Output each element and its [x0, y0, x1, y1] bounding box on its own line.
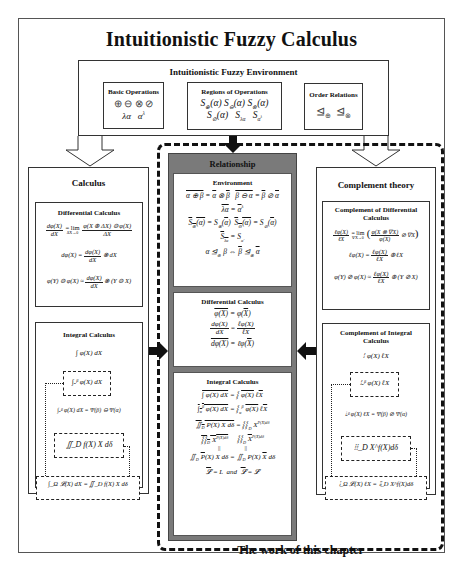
arrow-to-calculus-icon: [60, 136, 120, 168]
relationship-differential-title: Differential Calculus: [174, 298, 291, 306]
relationship-integral-title: Integral Calculus: [174, 378, 291, 386]
complement-theory-title: Complement theory: [317, 180, 435, 190]
complement-dotted-connector-left: [331, 384, 350, 476]
order-relations-title: Order Relations: [305, 91, 362, 99]
rel-int-eq-1: ∫ φ(X) dX = ⸾ φ(X) ℓX: [174, 390, 291, 399]
rel-diff-eq-2: dφ(X)dX = ℓφ(X)ℓX: [174, 321, 291, 336]
basic-operations-box: Basic Operations ⊕ ⊖ ⊗ ⊘ λα αλ: [103, 82, 164, 129]
env-eq-1: α ⊕ β = α ⊗ β β ⊖ α = β ⊘ α: [174, 191, 291, 200]
connector-left: [78, 135, 79, 136]
regions-row-2: S⊘(α) Sλα Sαλ: [188, 110, 281, 122]
arrow-from-complement-icon: [297, 342, 317, 360]
env-eq-5: α ⊴⊕ β ⇔ β ⊴⊗ α: [174, 247, 291, 258]
complement-double-integral: ⦙⦙_D X^f(X)dδ: [341, 443, 411, 453]
complement-differential-box: Complement of Differential Calculus ℓφ(X…: [322, 201, 430, 310]
environment-title: Intuitionistic Fuzzy Environment: [79, 67, 388, 77]
rel-int-eq-4-mid: || ||: [174, 445, 291, 451]
main-title: Intuitionistic Fuzzy Calculus: [0, 28, 463, 51]
order-relations-symbols: ⊴⊕ ⊴⊗: [305, 105, 362, 120]
rel-int-eq-4: ⸾⸾D XP(X)dδ ⸾⸾D XP(X)dδ: [174, 434, 291, 445]
dotted-connector-right: [124, 446, 130, 476]
regions-of-operations-box: Regions of Operations S⊕(α) S⊖(α) S⊗(α) …: [187, 82, 282, 130]
definite-integral: ∫ₐᵝ φ(X) dX: [63, 378, 111, 386]
differential-calculus-box: Differential Calculus dφ(X)dX = limΔX→0 …: [35, 202, 143, 307]
differential-eq: dφ(X) = dφ(X)dX ⊗ dX: [36, 249, 142, 263]
arrow-from-calculus-icon: [149, 342, 169, 360]
integral-equality: ∫_Ω 𝓛(X) dX = ∬_D f(X) X dδ: [36, 476, 140, 500]
double-integral: ∬_D f(X) X dδ: [54, 440, 124, 449]
complement-indefinite-integral: ⦙ φ(X) ℓX: [323, 352, 429, 360]
regions-row-1: S⊕(α) S⊖(α) S⊗(α): [188, 98, 281, 110]
complement-differential-eq: ℓφ(X) = ℓφ(X)ℓX ⊕ ℓX: [323, 249, 429, 263]
relationship-differential-box: Differential Calculus φ(X) = φ(X) dφ(X)d…: [173, 292, 292, 367]
rel-diff-eq-3: dφ(X) = ℓφ(X): [174, 339, 291, 348]
rel-int-eq-3: ∬D P(X) X dδ = ⸾⸾D XP(X)dδ: [174, 420, 291, 431]
complement-approximation-eq: φ(Y) ⊘ φ(X) ≈ ℓφ(X)ℓX ⊕ (Y ⊘ X): [323, 271, 429, 285]
integral-calculus-title: Integral Calculus: [36, 331, 142, 339]
rel-diff-eq-1: φ(X) = φ(X): [174, 309, 291, 318]
rel-int-eq-2: ∫αβ φ(X) dX = ⸾αβ φ(X) ℓX: [174, 404, 291, 415]
calculus-title: Calculus: [29, 178, 148, 188]
env-eq-3: S⊕(α) = S⊗(α) S⊖(α) = S⊘(α): [174, 218, 291, 229]
complement-derivative-definition: ℓφ(X)ℓX = lim∇X→0 (φ(X ⊗ ∇X)φ(X) ⊘ ∇X): [323, 227, 429, 242]
derivative-definition: dφ(X)dX = limΔX→0 φ(X ⊕ ΔX) ⊖ φ(X)ΔX: [36, 223, 142, 237]
basic-operations-scalars: λα αλ: [104, 110, 163, 121]
env-eq-2: λα = αλ: [174, 204, 291, 214]
order-relations-box: Order Relations ⊴⊕ ⊴⊗: [304, 83, 363, 130]
basic-operations-symbols: ⊕ ⊖ ⊗ ⊘: [104, 98, 163, 109]
complement-integral-title: Complement of Integral Calculus: [323, 329, 429, 346]
complement-integral-equality: ⦙_Ω 𝓛(X) ℓX = ⦙⦙_D X^f(X)dδ: [325, 476, 427, 500]
relationship-integral-box: Integral Calculus ∫ φ(X) dX = ⸾ φ(X) ℓX …: [173, 372, 292, 536]
regions-of-operations-title: Regions of Operations: [188, 88, 281, 96]
relationship-environment-box: Environment α ⊕ β = α ⊗ β β ⊖ α = β ⊘ α …: [173, 173, 292, 287]
differential-calculus-title: Differential Calculus: [36, 209, 142, 217]
dotted-connector-left: [45, 383, 63, 476]
rel-int-eq-6: 𝓛 = L and 𝓛 = 𝓛: [174, 468, 291, 476]
relationship-environment-title: Environment: [174, 179, 291, 187]
indefinite-integral: ∫ φ(X) dX: [36, 349, 142, 357]
complement-differential-title: Complement of Differential Calculus: [323, 206, 429, 223]
env-eq-4: Sλα = Sαλ: [174, 232, 291, 243]
rel-int-eq-5: ∬D P(X) X dδ = ∬D P(X) X dδ: [174, 453, 291, 462]
arrow-to-relationship-icon: [222, 136, 244, 154]
chapter-caption: The work of this chapter: [157, 543, 444, 558]
basic-operations-title: Basic Operations: [104, 88, 163, 96]
complement-definite-integral: ⦙ₐᵝ φ(X) ℓX: [350, 379, 399, 387]
relationship-title: Relationship: [169, 159, 296, 169]
complement-dotted-connector-right: [411, 448, 417, 476]
approximation-eq: φ(Y) ⊖ φ(X) ≈ dφ(X)dX ⊗ (Y ⊖ X): [36, 275, 142, 289]
